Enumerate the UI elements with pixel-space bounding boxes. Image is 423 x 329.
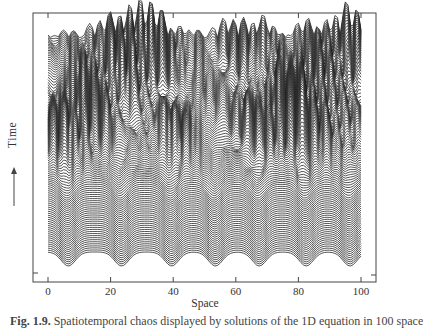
x-tick-label: 0 — [45, 285, 51, 297]
x-tick-label: 40 — [168, 285, 179, 297]
x-tick-label: 80 — [293, 285, 304, 297]
x-axis-label: Space — [191, 297, 218, 309]
waterfall-traces — [34, 0, 375, 292]
x-tick-label: 20 — [105, 285, 116, 297]
y-axis-label: Time — [4, 122, 24, 212]
y-axis-label-text: Time — [6, 122, 18, 148]
x-tick-label: 60 — [230, 285, 241, 297]
trace-line — [48, 0, 361, 38]
up-arrow-icon — [8, 166, 20, 206]
bottom-mask — [34, 268, 375, 281]
figure-caption: Fig. 1.9. Spatiotemporal chaos displayed… — [10, 314, 423, 329]
caption-prefix: Fig. 1.9. — [10, 314, 51, 328]
caption-text: Spatiotemporal chaos displayed by soluti… — [54, 314, 423, 328]
x-tick-label: 100 — [353, 285, 370, 297]
